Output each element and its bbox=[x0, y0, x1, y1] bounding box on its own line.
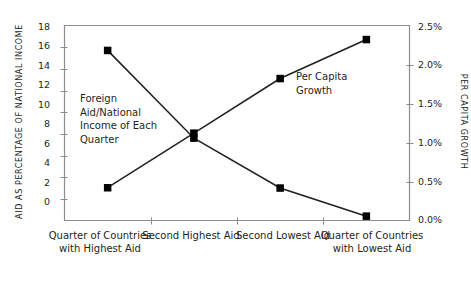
growth-data-point bbox=[104, 184, 112, 192]
growth-data-point bbox=[276, 75, 284, 83]
aid-series-markers bbox=[104, 47, 370, 220]
growth-data-point bbox=[363, 36, 371, 44]
growth-series-line bbox=[108, 40, 367, 188]
aid-data-point bbox=[104, 47, 112, 55]
aid-series-line bbox=[108, 50, 367, 216]
plot-area bbox=[0, 0, 471, 283]
aid-data-point bbox=[276, 184, 284, 192]
growth-data-point bbox=[190, 129, 198, 137]
growth-series-markers bbox=[104, 36, 370, 192]
axis-lines bbox=[64, 25, 410, 221]
aid-data-point bbox=[363, 212, 371, 220]
chart-container: AID AS PERCENTAGE OF NATIONAL INCOME PER… bbox=[0, 0, 471, 283]
